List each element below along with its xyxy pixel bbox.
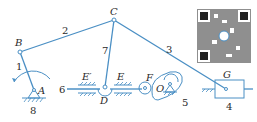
cam-rotation-arc-icon	[164, 74, 178, 82]
label-link-8: 8	[30, 105, 36, 116]
joint-c	[112, 18, 116, 22]
label-g: G	[223, 69, 231, 80]
cam-pivot-o	[163, 83, 177, 96]
label-link-5: 5	[182, 97, 188, 108]
label-link-1: 1	[16, 61, 22, 72]
label-c: C	[110, 6, 118, 17]
label-f: F	[145, 72, 154, 83]
label-o: O	[156, 83, 164, 94]
label-b: B	[14, 37, 22, 48]
joint-a	[33, 89, 36, 92]
joint-b	[18, 50, 22, 54]
label-d: D	[99, 95, 108, 106]
rotation-arc-icon	[14, 71, 50, 82]
joint-d	[103, 85, 107, 89]
slider-g-block	[215, 80, 244, 98]
label-link-6: 6	[59, 84, 65, 95]
joint-f	[144, 87, 147, 90]
qr-logo-icon	[219, 31, 229, 41]
label-link-3: 3	[166, 44, 172, 55]
mechanism-diagram: B C A D E′ E F O G 1 2 3 4 5 6 7 8	[0, 0, 257, 122]
label-link-7: 7	[102, 45, 108, 56]
joint-g	[225, 88, 228, 91]
label-e-prime: E′	[81, 71, 92, 82]
qr-code	[197, 9, 251, 63]
label-e: E	[116, 71, 125, 82]
label-link-2: 2	[62, 25, 68, 36]
label-link-4: 4	[226, 101, 232, 112]
label-a: A	[37, 85, 45, 96]
